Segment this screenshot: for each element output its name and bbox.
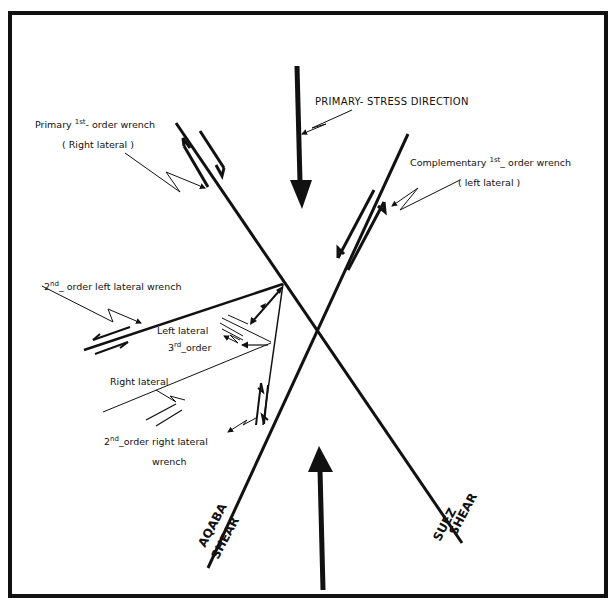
primary-wrench-label: Primary 1st- order wrench <box>35 118 155 130</box>
second-order-right-label-line2: wrench <box>152 456 187 467</box>
second-order-right-leader <box>228 418 256 432</box>
right-lateral-label: Right lateral <box>110 376 168 387</box>
complementary-wrench-label: Complementary 1st_ order wrench <box>410 156 571 168</box>
diagram-frame <box>10 13 606 596</box>
primary-stress-arrow-up-icon <box>308 446 333 590</box>
wrench-fault-diagram: PRIMARY- STRESS DIRECTION Primary 1st- o… <box>0 0 615 608</box>
second-order-right-label: 2nd_order right lateral <box>104 435 208 447</box>
primary-wrench-sense-label: ( Right lateral ) <box>62 139 134 150</box>
complementary-wrench-sense-label: ( left lateral ) <box>458 177 520 188</box>
right-lateral-leader <box>156 390 185 402</box>
right-lateral-third-sense-icon <box>146 404 182 426</box>
primary-stress-leader <box>302 110 352 134</box>
right-lateral-sense-icon <box>183 131 224 187</box>
primary-stress-label: PRIMARY- STRESS DIRECTION <box>315 96 469 107</box>
complementary-wrench-leader <box>392 180 460 210</box>
aqaba-shear-fault-line <box>208 134 408 568</box>
primary-stress-arrow-down-icon <box>290 66 312 209</box>
second-order-left-label: 2nd_ order left lateral wrench <box>44 280 181 292</box>
left-lateral-leader <box>224 335 240 343</box>
third-order-label: 3rd_order <box>168 341 211 353</box>
second-order-right-sense-icon <box>256 383 268 425</box>
second-order-left-lateral-fault <box>84 284 283 350</box>
left-lateral-label: Left lateral <box>157 325 208 336</box>
